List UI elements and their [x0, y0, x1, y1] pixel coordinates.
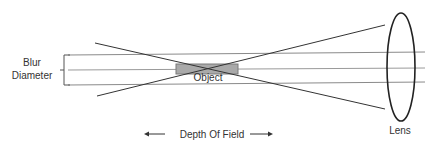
arrow-right-icon	[250, 132, 273, 137]
blur-label-line1: Blur	[23, 57, 41, 68]
arrow-left-icon	[144, 132, 165, 137]
depth-of-field-label: Depth Of Field	[180, 129, 244, 140]
ray-bottom-to-top	[97, 25, 385, 96]
depth-of-field-indicator: Depth Of Field	[144, 129, 273, 140]
lens-ellipse	[387, 13, 415, 121]
object-label: Object	[194, 72, 223, 83]
upper-guide-line	[68, 52, 425, 55]
blur-guide-lines	[68, 52, 425, 85]
blur-label-line2: Diameter	[12, 70, 53, 81]
lens-label: Lens	[389, 125, 411, 136]
optical-axis-line	[68, 68, 425, 70]
depth-of-field-diagram: Blur Diameter Object Lens Depth Of Field	[0, 0, 438, 145]
lower-guide-line	[68, 82, 425, 85]
light-rays	[95, 25, 385, 109]
